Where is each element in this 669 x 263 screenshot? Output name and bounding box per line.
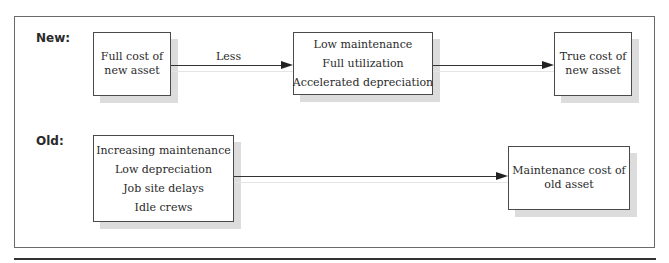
box-text-line: Full utilization bbox=[322, 54, 403, 73]
box-text-line: Increasing maintenance bbox=[96, 141, 231, 160]
box-text-line: True cost of bbox=[560, 50, 627, 64]
box-text-line: Job site delays bbox=[123, 179, 204, 198]
box-text-line: new asset bbox=[104, 64, 159, 78]
box-text-line: Full cost of bbox=[101, 50, 163, 64]
arrow-shadow bbox=[433, 71, 554, 72]
box-text-line: Low depreciation bbox=[115, 160, 212, 179]
less-arrow bbox=[171, 65, 283, 66]
bottom-rule bbox=[14, 258, 656, 260]
box-text-line: Idle crews bbox=[135, 198, 193, 217]
to-true-cost-arrow bbox=[433, 65, 543, 66]
new-row-label: New: bbox=[36, 31, 70, 45]
to-maintenance-cost-arrow bbox=[234, 176, 497, 177]
true-cost-new-asset-box: True cost of new asset bbox=[554, 32, 632, 96]
maintenance-cost-old-asset-box: Maintenance cost of old asset bbox=[508, 146, 630, 210]
box-text-line: Low maintenance bbox=[314, 35, 413, 54]
new-asset-factors-box: Low maintenance Full utilization Acceler… bbox=[293, 32, 433, 95]
arrow-head-icon bbox=[281, 61, 293, 69]
box-text-line: Maintenance cost of bbox=[512, 164, 625, 178]
arrow-head-icon bbox=[542, 61, 554, 69]
arrow-head-icon bbox=[496, 172, 508, 180]
old-row-label: Old: bbox=[36, 134, 64, 148]
box-text-line: old asset bbox=[544, 178, 593, 192]
less-label: Less bbox=[216, 50, 241, 63]
full-cost-new-asset-box: Full cost of new asset bbox=[93, 32, 171, 96]
old-asset-factors-box: Increasing maintenance Low depreciation … bbox=[93, 135, 234, 222]
arrow-shadow bbox=[234, 182, 508, 183]
box-text-line: Accelerated depreciation bbox=[293, 73, 433, 92]
box-text-line: new asset bbox=[565, 64, 620, 78]
arrow-shadow bbox=[171, 71, 293, 72]
